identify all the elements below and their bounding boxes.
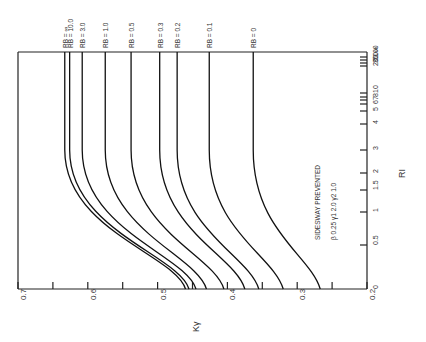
k-tick-label: 0.6 [89, 288, 98, 300]
series-curve [70, 52, 189, 289]
series-label: RB = 0.3 [157, 22, 164, 48]
series-label: RB = 0.5 [128, 22, 135, 48]
series-label: RB = 3.0 [79, 22, 86, 48]
r-tick-label: 1.5 [372, 180, 379, 190]
annotation: SIDESWAY PREVENTEDβ 0.25 γ1 2.0 γ2 1.0 [314, 165, 338, 240]
series-curve [65, 52, 186, 289]
series-labels: RB = ∞RB = 10.0RB = 3.0RB = 1.0RB = 0.5R… [62, 19, 257, 48]
annotation-line: β 0.25 γ1 2.0 γ2 1.0 [330, 182, 338, 240]
k-tick-label: 0.7 [19, 288, 28, 300]
series-label: RB = 0.2 [174, 22, 181, 48]
annotation-line: SIDESWAY PREVENTED [314, 165, 321, 240]
curves [65, 52, 320, 289]
r-tick-label: 10 [372, 85, 379, 93]
k-axis-labels: 0.70.60.50.40.30.2 [19, 288, 377, 300]
chart: 0.70.60.50.40.30.2 00.511.52345678102030… [0, 0, 426, 342]
k-tick-label: 0.5 [159, 288, 168, 300]
series-label: RB = 0 [250, 28, 257, 48]
series-curve [177, 52, 259, 289]
r-tick-label: 0 [372, 285, 379, 289]
r-tick-label: ∞ [372, 47, 379, 52]
series-label: RB = 0.1 [206, 22, 213, 48]
r-axis-title: RI [397, 169, 407, 178]
series-curve [253, 52, 320, 289]
r-tick-label: 0.5 [372, 235, 379, 245]
r-tick-label: 4 [372, 120, 379, 124]
series-curve [105, 52, 206, 289]
r-tick-label: 2 [372, 169, 379, 173]
r-axis-ticks: 00.511.5234567810203050100∞ [360, 45, 379, 289]
series-label: RB = 1.0 [102, 22, 109, 48]
k-tick-label: 0.3 [298, 288, 307, 300]
k-axis-title: Kγ [191, 321, 201, 332]
series-label: RB = 10.0 [67, 19, 74, 48]
r-tick-label: 3 [372, 146, 379, 150]
k-tick-label: 0.4 [228, 288, 237, 300]
k-tick-label: 0.2 [368, 288, 377, 300]
series-curve [209, 52, 283, 289]
r-tick-label: 1 [372, 208, 379, 212]
r-tick-label: 5 [372, 107, 379, 111]
